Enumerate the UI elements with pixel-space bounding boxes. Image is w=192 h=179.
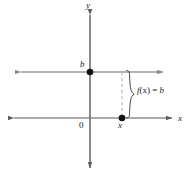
function-expression-label: f(x) = b xyxy=(137,86,164,95)
function-argument: (x) xyxy=(140,85,151,95)
function-equals: = xyxy=(150,85,160,95)
b-value-label: b xyxy=(80,60,85,69)
function-graph-figure: y b 0 x x f(x) = b xyxy=(0,0,192,179)
measure-brace xyxy=(127,71,135,118)
origin-label: 0 xyxy=(79,121,84,130)
point-b xyxy=(87,69,94,76)
x-axis-label: x xyxy=(178,114,182,123)
y-axis-label: y xyxy=(86,1,90,10)
function-value: b xyxy=(160,85,165,95)
x-point-label: x xyxy=(118,121,122,130)
